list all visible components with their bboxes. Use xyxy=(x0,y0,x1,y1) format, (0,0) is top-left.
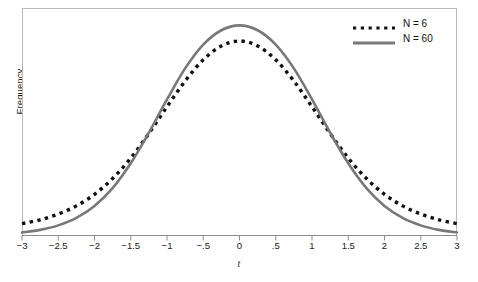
x-tick-label: 1.5 xyxy=(342,240,355,251)
legend-label-n60: N = 60 xyxy=(403,33,433,44)
x-tick-label: 2.5 xyxy=(414,240,427,251)
x-tick-label: 1 xyxy=(309,240,314,251)
x-tick-label: 2 xyxy=(382,240,387,251)
x-tick-label: 3 xyxy=(454,240,459,251)
x-tick-label: −2 xyxy=(89,240,100,251)
x-tick-label: 0 xyxy=(237,240,242,251)
x-tick-label: −.5 xyxy=(197,240,210,251)
x-tick-label: −1.5 xyxy=(121,240,140,251)
legend-item-n6: N = 6 xyxy=(352,16,448,31)
dotted-line-sample xyxy=(352,19,396,29)
chart-figure: Frequency −3−2.5−2−1.5−1−.50.511.522.53 … xyxy=(0,0,478,282)
legend-label-n6: N = 6 xyxy=(403,18,427,29)
x-tick-label: −3 xyxy=(17,240,28,251)
x-tick-label: −1 xyxy=(162,240,173,251)
chart-legend: N = 6 N = 60 xyxy=(352,16,448,46)
x-tick-label: .5 xyxy=(272,240,280,251)
legend-item-n60: N = 60 xyxy=(352,31,448,46)
x-tick-label: −2.5 xyxy=(49,240,68,251)
solid-line-sample xyxy=(352,34,396,44)
x-axis-title: t xyxy=(0,258,478,269)
